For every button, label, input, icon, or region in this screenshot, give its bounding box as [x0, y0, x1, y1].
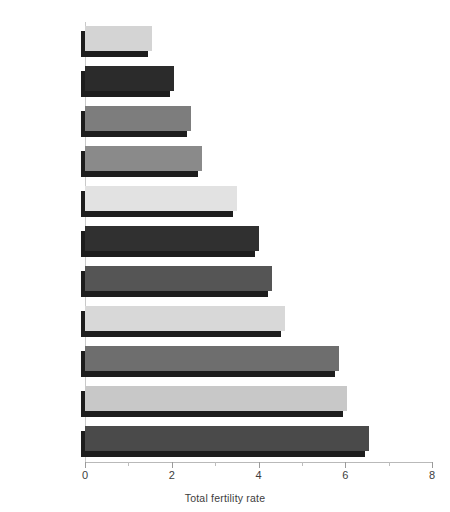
fertility-rate-bar-chart: SingaporeSouth KoreSri LankaThailandIndo… [0, 0, 450, 512]
x-tick-label: 2 [157, 469, 187, 481]
bar-face [85, 186, 237, 211]
x-axis-title: Total fertility rate [0, 492, 450, 504]
bar-singapore [85, 26, 152, 56]
x-tick-major [345, 462, 346, 468]
x-tick-minor [302, 462, 303, 466]
x-tick-label: 0 [70, 469, 100, 481]
bar-face [85, 66, 174, 91]
bar-face [85, 106, 191, 131]
x-tick-minor [215, 462, 216, 466]
bar-india [85, 266, 272, 296]
bar-row: Pakistan [85, 422, 432, 462]
bar-pakistan [85, 426, 369, 456]
bar-thailand [85, 146, 202, 176]
bar-face [85, 386, 347, 411]
x-tick-major [432, 462, 433, 468]
x-tick-major [85, 462, 86, 468]
plot-area: SingaporeSouth KoreSri LankaThailandIndo… [85, 22, 432, 462]
bar-row: Nepal [85, 382, 432, 422]
bar-bangladesh [85, 346, 339, 376]
bar-row: Malaysia [85, 222, 432, 262]
x-tick-label: 8 [417, 469, 447, 481]
x-tick-major [259, 462, 260, 468]
bar-face [85, 146, 202, 171]
x-tick-minor [128, 462, 129, 466]
bar-face [85, 266, 272, 291]
bar-row: Bangladesh [85, 342, 432, 382]
x-tick-label: 6 [330, 469, 360, 481]
bar-face [85, 346, 339, 371]
bar-row: India [85, 262, 432, 302]
bar-south-kore [85, 66, 174, 96]
bar-indonesia [85, 186, 237, 216]
bar-sri-lanka [85, 106, 191, 136]
bar-malaysia [85, 226, 259, 256]
x-tick-major [172, 462, 173, 468]
bar-phillppines [85, 306, 285, 336]
bar-row: Indonesia [85, 182, 432, 222]
clipped-caption-strip [0, 0, 450, 10]
bar-row: Singapore [85, 22, 432, 62]
bar-face [85, 226, 259, 251]
bar-face [85, 306, 285, 331]
bar-nepal [85, 386, 347, 416]
bar-face [85, 426, 369, 451]
bar-row: Thailand [85, 142, 432, 182]
x-tick-minor [389, 462, 390, 466]
x-tick-label: 4 [244, 469, 274, 481]
bar-row: South Kore [85, 62, 432, 102]
bar-row: Phillppines [85, 302, 432, 342]
bar-face [85, 26, 152, 51]
bar-row: Sri Lanka [85, 102, 432, 142]
